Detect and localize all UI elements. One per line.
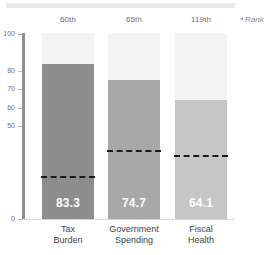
y-tick-mark [18, 71, 22, 72]
category-label-line1: Fiscal [165, 224, 237, 235]
bar-value-fiscal-health: 64.1 [175, 196, 227, 210]
y-tick-100: 100 [0, 34, 22, 35]
y-tick-80: 80 [0, 71, 22, 72]
y-tick-mark [18, 126, 22, 127]
category-label-line2: Burden [32, 235, 104, 246]
category-label-line2: Spending [98, 235, 170, 246]
bar-fiscal-health[interactable]: 64.1 [175, 100, 227, 219]
category-label-row: Tax Burden Government Spending Fiscal He… [0, 224, 271, 252]
y-tick-mark [18, 34, 22, 35]
y-tick-70: 70 [0, 89, 22, 90]
bar-value-tax-burden: 83.3 [42, 196, 94, 210]
y-tick-label-60: 60 [7, 103, 15, 112]
y-tick-mark [18, 108, 22, 109]
x-axis-baseline [22, 219, 235, 220]
left-caret-icon [240, 17, 243, 21]
y-tick-label-50: 50 [7, 121, 15, 130]
rank-label-fiscal-health: 119th [175, 13, 227, 27]
y-tick-50: 50 [0, 126, 22, 127]
rank-label-tax-burden: 60th [42, 13, 94, 27]
average-marker-government-spending [107, 150, 161, 152]
average-marker-fiscal-health [174, 155, 228, 157]
category-label-fiscal-health: Fiscal Health [165, 224, 237, 246]
bar-value-government-spending: 74.7 [108, 196, 160, 210]
y-tick-label-0: 0 [11, 214, 15, 223]
top-divider-band [6, 3, 235, 8]
y-tick-0: 0 [0, 219, 22, 220]
y-axis-line [22, 33, 25, 219]
rank-label-government-spending: 65th [108, 13, 160, 27]
y-tick-label-100: 100 [3, 29, 15, 38]
bar-chart: 60th 65th 119th Rank 100 80 70 60 50 [0, 0, 271, 255]
category-label-line2: Health [165, 235, 237, 246]
y-tick-60: 60 [0, 108, 22, 109]
plot-area: 100 80 70 60 50 0 83.3 74.7 6 [0, 33, 271, 219]
y-tick-label-70: 70 [7, 84, 15, 93]
category-label-government-spending: Government Spending [98, 224, 170, 246]
average-marker-tax-burden [41, 176, 95, 178]
rank-legend: Rank [240, 13, 264, 27]
category-label-tax-burden: Tax Burden [32, 224, 104, 246]
category-label-line1: Tax [32, 224, 104, 235]
rank-legend-text: Rank [245, 15, 264, 24]
rank-header-row: 60th 65th 119th [0, 13, 271, 27]
category-label-line1: Government [98, 224, 170, 235]
y-tick-mark [18, 89, 22, 90]
y-tick-label-80: 80 [7, 66, 15, 75]
bar-tax-burden[interactable]: 83.3 [42, 64, 94, 219]
